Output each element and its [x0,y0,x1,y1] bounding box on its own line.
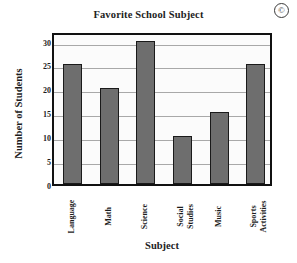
x-tick-label: Activities [258,201,267,233]
chart-title: Favorite School Subject [0,9,297,20]
bar-chart-figure: © Favorite School Subject Number of Stud… [0,0,297,263]
gridline [54,116,270,117]
x-tick-label: Language [66,200,75,234]
gridline [54,164,270,165]
x-tick-label: Social [175,206,184,226]
x-tick-label-group: Music [199,186,236,238]
bar [136,41,155,184]
gridline [54,45,270,46]
x-tick-label-group: SocialStudies [162,186,199,238]
x-axis-title: Subject [52,240,272,251]
y-axis-tick-labels: 051015202530 [27,33,51,186]
y-tick-label: 25 [27,62,51,71]
bar [173,136,192,184]
bar [100,88,119,184]
x-tick-label-group: SportsActivities [235,186,272,238]
x-tick-label: Music [213,206,222,227]
gridline [54,68,270,69]
y-axis-title: Number of Students [13,44,24,184]
x-tick-label-group: Language [52,186,89,238]
bar [210,112,229,184]
x-tick-label-group: Science [125,186,162,238]
y-tick-label: 20 [27,86,51,95]
gridline [54,92,270,93]
x-tick-label: Math [103,207,112,226]
plot-inner [54,35,270,184]
y-tick-label: 30 [27,38,51,47]
x-tick-label-group: Math [89,186,126,238]
gridline [54,140,270,141]
y-tick-label: 5 [27,158,51,167]
y-tick-label: 0 [27,182,51,191]
x-tick-label: Science [139,204,148,229]
bar [246,64,265,184]
x-tick-label: Studies [185,204,194,229]
y-tick-label: 10 [27,134,51,143]
plot-area [52,33,272,186]
bar [63,64,82,184]
y-tick-label: 15 [27,110,51,119]
x-axis-tick-labels: LanguageMathScienceSocialStudiesMusicSpo… [52,186,272,238]
x-tick-label: Sports [248,205,257,227]
